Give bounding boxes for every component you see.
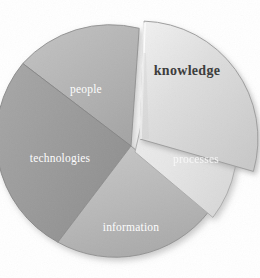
pie-chart: knowledge processes information technolo… — [0, 0, 260, 278]
paper-grain-overlay — [0, 0, 260, 278]
pie-chart-figure: knowledge processes information technolo… — [0, 0, 260, 278]
